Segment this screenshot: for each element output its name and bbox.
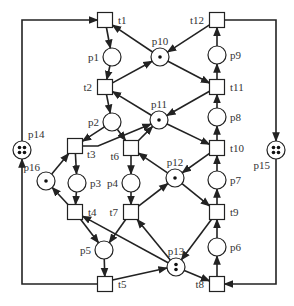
transition-label-t5: t5: [118, 278, 127, 290]
transition-t12[interactable]: [210, 13, 225, 28]
place-circle: [122, 174, 140, 192]
arc-p1-to-t2: [107, 66, 110, 80]
place-p9[interactable]: [208, 46, 226, 64]
place-p4[interactable]: [122, 174, 140, 192]
place-p8[interactable]: [208, 108, 226, 126]
place-label-p3: p3: [90, 177, 102, 189]
place-p5[interactable]: [95, 241, 113, 259]
token-icon: [174, 263, 178, 267]
place-label-p12: p12: [167, 156, 184, 168]
transition-label-t10: t10: [230, 142, 245, 154]
transition-t8[interactable]: [210, 277, 225, 292]
token-icon: [158, 55, 162, 59]
token-icon: [277, 146, 281, 150]
transition-label-t1: t1: [118, 14, 127, 26]
place-p2[interactable]: [103, 113, 121, 131]
place-circle: [95, 241, 113, 259]
place-label-p5: p5: [80, 244, 92, 256]
place-label-p4: p4: [107, 177, 119, 189]
place-circle: [68, 174, 86, 192]
transition-label-t6: t6: [110, 150, 119, 162]
arc-t1-to-p1: [106, 28, 110, 49]
token-icon: [44, 179, 48, 183]
arc-t3-to-p3: [75, 154, 76, 175]
transition-label-t7: t7: [109, 206, 118, 218]
place-p15[interactable]: [267, 141, 285, 159]
arc-p10-to-t11: [168, 61, 210, 83]
place-circle: [103, 48, 121, 66]
token-icon: [23, 151, 27, 155]
place-p7[interactable]: [208, 171, 226, 189]
arc-p13-to-t7: [137, 220, 170, 261]
place-circle: [208, 108, 226, 126]
arc-t12-to-p10: [168, 25, 210, 52]
place-p6[interactable]: [208, 238, 226, 256]
place-p3[interactable]: [68, 174, 86, 192]
transition-t3[interactable]: [68, 139, 83, 154]
token-icon: [18, 146, 22, 150]
transition-t5[interactable]: [98, 277, 113, 292]
place-label-p9: p9: [230, 49, 242, 61]
transition-label-t2: t2: [83, 81, 92, 93]
arc-p5-to-t5: [104, 259, 105, 277]
place-p14[interactable]: [13, 141, 31, 159]
transition-t1[interactable]: [98, 13, 113, 28]
token-icon: [272, 151, 276, 155]
place-p13[interactable]: [167, 258, 185, 276]
transition-label-t9: t9: [230, 206, 239, 218]
arc-t11-to-p11: [167, 91, 210, 115]
place-label-p14: p14: [28, 128, 45, 140]
transition-t7[interactable]: [124, 205, 139, 220]
place-label-p7: p7: [230, 174, 242, 186]
token-icon: [272, 146, 276, 150]
place-label-p2: p2: [88, 116, 99, 128]
place-p12[interactable]: [166, 169, 184, 187]
transition-label-t3: t3: [87, 148, 96, 160]
place-label-p8: p8: [230, 111, 242, 123]
transition-label-t8: t8: [195, 278, 204, 290]
arc-p16-to-t3: [52, 154, 69, 175]
nodes-layer: [13, 13, 285, 292]
place-p10[interactable]: [151, 48, 169, 66]
labels-layer: p1p2p3p4p5p6p7p8p9p10p11p12p13p14p15p16t…: [24, 14, 271, 290]
place-circle: [208, 171, 226, 189]
arc-p11-to-t10: [167, 124, 209, 144]
place-label-p13: p13: [168, 245, 185, 257]
place-label-p15: p15: [254, 159, 271, 171]
transition-label-t11: t11: [230, 81, 244, 93]
transition-t6[interactable]: [124, 141, 139, 156]
arc-p12-to-t6: [139, 153, 168, 173]
place-circle: [267, 141, 285, 159]
place-circle: [13, 141, 31, 159]
place-label-p6: p6: [230, 241, 242, 253]
place-label-p11: p11: [151, 98, 167, 110]
token-icon: [23, 146, 27, 150]
token-icon: [174, 268, 178, 272]
transition-t4[interactable]: [68, 205, 83, 220]
token-icon: [157, 118, 161, 122]
arc-t9-to-p13: [181, 220, 211, 260]
arc-t2-to-p2: [107, 95, 111, 114]
arc-p11-to-t2: [113, 92, 152, 116]
arc-t7-to-p12: [139, 184, 168, 207]
token-icon: [18, 151, 22, 155]
place-p11[interactable]: [150, 111, 168, 129]
transition-t11[interactable]: [210, 80, 225, 95]
place-circle: [208, 238, 226, 256]
transition-t2[interactable]: [98, 80, 113, 95]
place-circle: [208, 46, 226, 64]
place-p16[interactable]: [37, 172, 55, 190]
transition-label-t12: t12: [190, 14, 204, 26]
arc-t5-to-p14: [22, 159, 98, 284]
place-label-p10: p10: [152, 35, 169, 47]
petri-net-diagram: p1p2p3p4p5p6p7p8p9p10p11p12p13p14p15p16t…: [0, 0, 294, 306]
arc-t4-to-p16: [52, 188, 68, 205]
transition-t10[interactable]: [210, 141, 225, 156]
transition-label-t4: t4: [88, 206, 97, 218]
arc-t10-to-p12: [182, 153, 209, 172]
place-p1[interactable]: [103, 48, 121, 66]
place-circle: [103, 113, 121, 131]
token-icon: [277, 151, 281, 155]
arc-t2-to-p10: [113, 61, 153, 83]
transition-t9[interactable]: [210, 205, 225, 220]
